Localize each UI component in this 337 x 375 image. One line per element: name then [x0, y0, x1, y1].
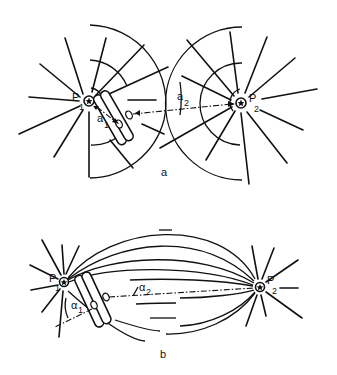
pole-2-subscript: 2	[254, 104, 259, 114]
pole-2-label: P	[249, 92, 256, 104]
angle-a2-line	[133, 104, 232, 114]
pole-1-subscript: 1	[79, 102, 84, 112]
panel-b-label: b	[160, 348, 166, 360]
chromosome-pole-diagram: P 1 a 1 a 2	[0, 0, 337, 375]
angle-alpha1-arc	[65, 298, 68, 318]
angle-alpha1-subscript: 1	[78, 305, 83, 315]
chromosome-b	[73, 271, 112, 329]
angle-alpha1-label: α	[71, 299, 78, 311]
angle-alpha2-label: α	[139, 281, 146, 293]
pole-1-rays	[19, 38, 168, 177]
pole-1-star-icon	[60, 278, 69, 287]
pole-2-star-icon	[236, 98, 246, 108]
arrow-head-icon	[135, 110, 140, 116]
panel-a: P 1 a 1 a 2	[19, 25, 317, 184]
pole-1-subscript: 1	[55, 283, 60, 293]
pole-2-label: P	[267, 274, 274, 286]
angle-alpha2-tick	[133, 287, 138, 296]
angle-a2-subscript: 2	[184, 98, 189, 108]
angle-alpha2-line	[109, 288, 254, 297]
panel-b: α 1 α 2 P 1 P 2 b	[30, 230, 302, 360]
pole-2-star-icon	[256, 283, 265, 292]
angle-a1-label: a	[97, 112, 104, 124]
angle-a2-label: a	[177, 90, 184, 102]
angle-alpha2-subscript: 2	[146, 287, 151, 297]
panel-a-label: a	[161, 166, 168, 178]
pole-2-subscript: 2	[272, 286, 277, 296]
pole-2-arcs	[166, 27, 243, 180]
arrow-head-icon	[228, 101, 235, 107]
pole-1-star-icon	[84, 96, 94, 106]
angle-a1-subscript: 1	[104, 120, 109, 130]
